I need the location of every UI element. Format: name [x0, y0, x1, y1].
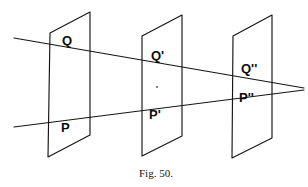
label-q-dprime: Q'': [241, 62, 257, 75]
figure-drawing: [0, 0, 308, 187]
plane-three: [232, 15, 272, 158]
label-q-prime: Q': [151, 49, 164, 62]
figure-caption: Fig. 50.: [139, 168, 173, 179]
plane-two: [142, 15, 182, 156]
ray-q: [14, 38, 304, 88]
label-q: Q: [62, 34, 72, 47]
label-p-dprime: P'': [239, 91, 254, 104]
label-p: P: [61, 121, 70, 134]
label-p-prime: P': [149, 108, 161, 121]
page-speck: [156, 86, 158, 88]
figure-50: Q P Q' P' Q'' P'' Fig. 50.: [0, 0, 308, 187]
